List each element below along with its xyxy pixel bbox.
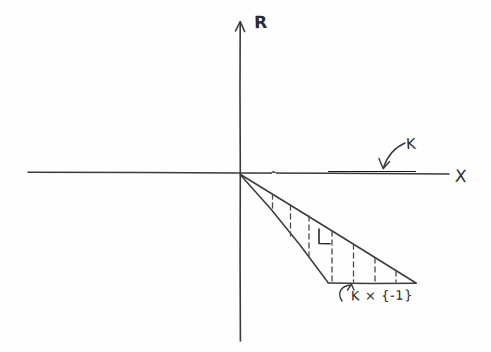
region-l-glyph xyxy=(319,229,330,244)
k-times-minus-one-label: K × {-1} xyxy=(351,287,413,303)
cone-lower-edge xyxy=(241,175,329,283)
x-axis-label: X xyxy=(455,166,467,186)
sketch-drawing xyxy=(0,0,491,352)
k-label: K xyxy=(406,135,417,153)
dashed-fibre-lines xyxy=(273,194,397,282)
cone-upper-edge xyxy=(241,175,417,284)
diagram-canvas: R X K K × {-1} xyxy=(0,0,491,352)
r-axis-label: R xyxy=(254,12,268,32)
compact-set-k-segment xyxy=(328,171,416,172)
